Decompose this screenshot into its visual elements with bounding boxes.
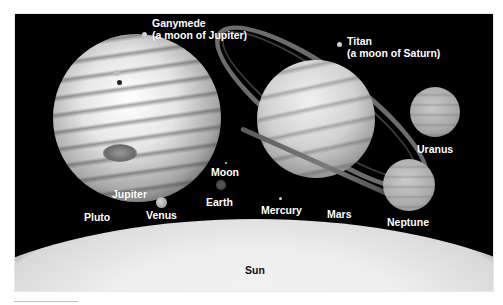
label-titan-name: Titan: [347, 35, 440, 47]
label-ganymede: Ganymede (a moon of Jupiter): [152, 17, 247, 41]
label-titan: Titan (a moon of Saturn): [347, 35, 440, 59]
label-uranus: Uranus: [417, 143, 453, 155]
mercury-planet: [279, 197, 282, 200]
label-ganymede-note: (a moon of Jupiter): [152, 29, 247, 41]
label-mars: Mars: [327, 208, 352, 220]
label-titan-note: (a moon of Saturn): [347, 47, 440, 59]
moon-shadow: [117, 80, 122, 85]
titan-moon: [337, 42, 342, 47]
divider-line: [14, 301, 78, 302]
label-moon: Moon: [211, 166, 239, 178]
jupiter-planet: [53, 34, 221, 202]
label-sun: Sun: [245, 264, 265, 276]
label-earth: Earth: [206, 196, 233, 208]
label-neptune: Neptune: [387, 216, 429, 228]
earth-moon: [225, 162, 227, 164]
sun-body: [14, 219, 494, 292]
label-ganymede-name: Ganymede: [152, 17, 247, 29]
great-red-spot: [103, 144, 137, 162]
label-mercury: Mercury: [261, 204, 302, 216]
uranus-planet: [410, 87, 460, 137]
label-pluto: Pluto: [84, 211, 110, 223]
label-venus: Venus: [146, 209, 177, 221]
solar-system-figure: Ganymede (a moon of Jupiter) Titan (a mo…: [14, 13, 494, 292]
jupiter-moon-io: [114, 70, 120, 76]
neptune-planet: [383, 159, 435, 211]
ganymede-moon: [142, 32, 147, 37]
label-jupiter: Jupiter: [112, 188, 147, 200]
venus-planet: [156, 197, 167, 208]
earth-planet: [216, 180, 226, 190]
